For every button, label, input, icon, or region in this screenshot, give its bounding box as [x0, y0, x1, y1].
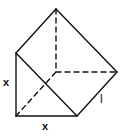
label-bottom-x: x — [42, 121, 48, 132]
top-left-edge — [16, 9, 56, 53]
right-length-edge — [77, 72, 117, 116]
triangular-prism-diagram: x x l — [0, 0, 121, 136]
label-left-x: x — [3, 77, 9, 88]
top-right-edge — [56, 9, 117, 72]
label-length-l: l — [100, 93, 103, 105]
hidden-diagonal-edge — [16, 72, 56, 116]
prism-drawing — [0, 0, 121, 136]
